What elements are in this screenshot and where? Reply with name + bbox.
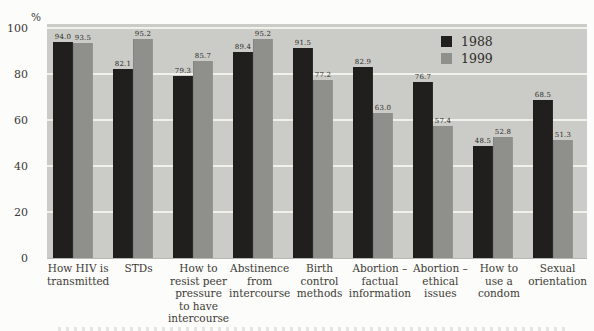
category-label-1: How HIV is transmitted	[47, 262, 109, 325]
category-label-3: How to resist peer pressure to have inte…	[168, 262, 229, 325]
legend-label-1988: 1988	[461, 35, 493, 48]
bar-value-label: 85.7	[195, 52, 211, 60]
bar-value-label: 51.3	[555, 131, 571, 139]
bar-group-4: 89.495.2	[227, 24, 287, 258]
bar-1999-8: 52.8	[493, 137, 513, 258]
y-tick-40: 40	[14, 160, 28, 173]
bar-group-5: 91.577.2	[287, 24, 347, 258]
category-label-5: Birth control methods	[290, 262, 349, 325]
bar-value-label: 79.3	[175, 67, 191, 75]
bar-1988-7: 76.7	[413, 82, 433, 258]
plot-area: 94.093.582.195.279.385.789.495.291.577.2…	[47, 24, 587, 259]
x-axis: How HIV is transmittedSTDsHow to resist …	[47, 262, 587, 325]
bar-group-1: 94.093.5	[47, 24, 107, 258]
bar-value-label: 89.4	[235, 43, 251, 51]
y-axis: 020406080100	[2, 24, 28, 258]
bar-1988-2: 82.1	[113, 69, 133, 258]
bar-1988-4: 89.4	[233, 52, 253, 258]
bar-1999-3: 85.7	[193, 61, 213, 258]
bar-value-label: 82.1	[115, 60, 131, 68]
bar-1999-5: 77.2	[313, 80, 333, 258]
bar-value-label: 77.2	[315, 71, 331, 79]
y-tick-60: 60	[14, 114, 28, 127]
bar-value-label: 94.0	[55, 33, 71, 41]
bar-1999-9: 51.3	[553, 140, 573, 258]
y-tick-0: 0	[21, 252, 28, 265]
legend: 1988 1999	[441, 35, 493, 69]
bar-value-label: 52.8	[495, 128, 511, 136]
legend-item-1999: 1999	[441, 52, 493, 65]
bar-value-label: 93.5	[75, 34, 91, 42]
category-label-4: Abstinence from intercourse	[229, 262, 290, 325]
bars-row: 94.093.582.195.279.385.789.495.291.577.2…	[47, 24, 587, 258]
bar-group-6: 82.963.0	[347, 24, 407, 258]
y-axis-unit-label: %	[31, 11, 41, 23]
bar-1999-4: 95.2	[253, 39, 273, 258]
bar-group-9: 68.551.3	[527, 24, 587, 258]
bar-1999-2: 95.2	[133, 39, 153, 258]
category-label-2: STDs	[109, 262, 168, 325]
bar-chart-figure: % 020406080100 94.093.582.195.279.385.78…	[0, 0, 594, 331]
bar-1988-5: 91.5	[293, 48, 313, 258]
bar-value-label: 48.5	[475, 137, 491, 145]
category-label-9: Sexual orientation	[528, 262, 587, 325]
bar-1988-1: 94.0	[53, 42, 73, 258]
bar-group-3: 79.385.7	[167, 24, 227, 258]
y-tick-100: 100	[7, 22, 28, 35]
category-label-7: Abortion – ethical issues	[411, 262, 470, 325]
bar-1988-8: 48.5	[473, 146, 493, 258]
bar-value-label: 57.4	[435, 117, 451, 125]
bar-value-label: 68.5	[535, 91, 551, 99]
bar-value-label: 82.9	[355, 58, 371, 66]
bar-1988-3: 79.3	[173, 76, 193, 258]
bar-1999-6: 63.0	[373, 113, 393, 258]
bar-group-2: 82.195.2	[107, 24, 167, 258]
legend-item-1988: 1988	[441, 35, 493, 48]
y-tick-80: 80	[14, 68, 28, 81]
bar-value-label: 76.7	[415, 73, 431, 81]
bar-value-label: 63.0	[375, 104, 391, 112]
category-label-6: Abortion – factual information	[349, 262, 411, 325]
legend-label-1999: 1999	[461, 52, 493, 65]
bar-value-label: 91.5	[295, 39, 311, 47]
bar-1988-6: 82.9	[353, 67, 373, 258]
bar-1999-7: 57.4	[433, 126, 453, 258]
y-tick-20: 20	[14, 206, 28, 219]
bar-1988-9: 68.5	[533, 100, 553, 258]
bar-1999-1: 93.5	[73, 43, 93, 258]
bar-value-label: 95.2	[135, 30, 151, 38]
cropped-caption-line	[58, 327, 566, 331]
legend-swatch-1988	[441, 36, 452, 47]
category-label-8: How to use a condom	[470, 262, 529, 325]
bar-value-label: 95.2	[255, 30, 271, 38]
legend-swatch-1999	[441, 53, 452, 64]
